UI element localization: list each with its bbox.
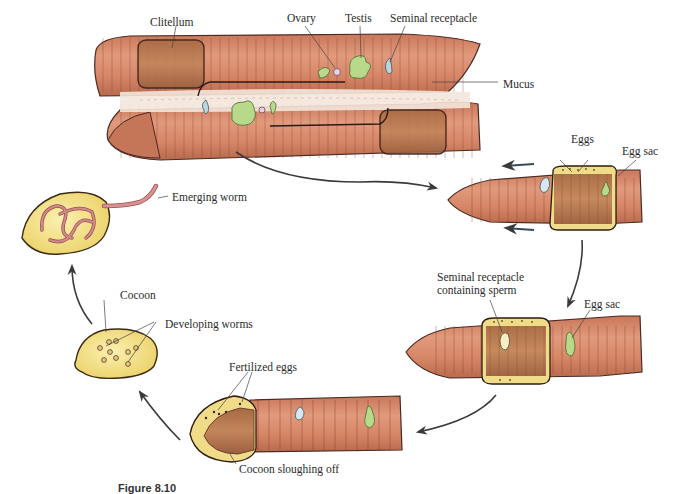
worm-sperm-collection (406, 300, 642, 384)
cycle-arrow-2 (568, 240, 582, 306)
label-seminal-receptacle: Seminal receptacle (390, 12, 477, 25)
label-developing-worms: Developing worms (165, 318, 253, 331)
label-cocoon-sloughing: Cocoon sloughing off (239, 463, 339, 476)
label-seminal-receptacle-sperm-1: Seminal receptacle (437, 271, 524, 284)
cycle-arrow-5 (72, 266, 92, 324)
figure-caption: Figure 8.10 (118, 482, 176, 494)
label-fertilized-eggs: Fertilized eggs (229, 361, 297, 374)
diagram-artwork (0, 0, 675, 494)
label-testis: Testis (345, 12, 372, 25)
label-clitellum: Clitellum (150, 16, 193, 29)
worm-fertilization (190, 372, 402, 464)
cycle-arrow-3 (418, 395, 496, 432)
mating-worms (95, 26, 498, 160)
label-emerging-worm: Emerging worm (172, 191, 247, 204)
label-cocoon: Cocoon (120, 289, 156, 302)
label-egg-sac-1: Egg sac (622, 145, 658, 158)
label-ovary: Ovary (287, 12, 316, 25)
cocoon-developing (75, 300, 157, 378)
label-egg-sac-2: Egg sac (584, 298, 620, 311)
worm-egg-collection (448, 160, 642, 230)
label-seminal-receptacle-sperm-2: containing sperm (437, 284, 517, 297)
earthworm-reproduction-diagram: Clitellum Ovary Testis Seminal receptacl… (0, 0, 675, 494)
label-mucus: Mucus (503, 78, 534, 91)
cycle-arrow-4 (140, 392, 180, 440)
label-eggs: Eggs (571, 133, 594, 146)
cocoon-hatching (22, 186, 168, 254)
